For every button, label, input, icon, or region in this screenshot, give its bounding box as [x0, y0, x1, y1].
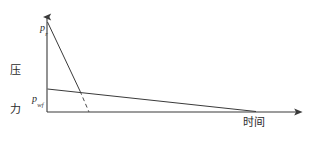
steep-decline-curve: [48, 22, 81, 91]
gentle-decline-curve: [48, 89, 257, 112]
label-pr-subscript: r: [45, 30, 48, 37]
y-axis-title-char-top: 压: [7, 64, 23, 77]
x-axis-title: 时间: [243, 116, 265, 129]
label-pwf-subscript: wf: [37, 101, 43, 108]
pressure-time-chart: [0, 0, 318, 144]
y-axis-title: 压力 压 力: [7, 25, 23, 142]
steep-decline-dashed-extension: [80, 91, 89, 112]
figure-container: 压力 压 力 时间 pr pwf: [0, 0, 318, 144]
label-pwf: pwf: [22, 82, 43, 117]
y-axis-title-char-bottom: 力: [7, 103, 23, 116]
label-pr: pr: [30, 11, 48, 46]
